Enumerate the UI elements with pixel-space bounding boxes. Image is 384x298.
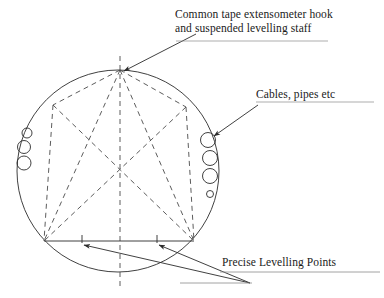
tape-line-upper-right-to-lower-right [186,107,194,241]
tape-line-crown-to-lower-left [44,70,120,241]
leader-line-cables [214,105,258,136]
cable-pipe-right-3 [203,169,218,184]
cable-pipe-left-1 [22,128,32,138]
cable-pipe-right-4 [207,191,214,198]
diagram-page: Common tape extensometer hook and suspen… [0,0,384,298]
label-extensometer-hook-line2: and suspended levelling staff [175,22,333,36]
tape-line-upper-right-to-lower-left [44,107,186,241]
tunnel-cross-section-diagram [0,0,384,298]
tape-line-crown-to-lower-right [120,70,194,241]
label-extensometer-hook-line1: Common tape extensometer hook [175,8,333,22]
leader-line-hook [124,34,196,71]
label-precise-levelling-points: Precise Levelling Points [222,256,336,270]
cable-pipe-right-1 [201,133,216,148]
label-cables-pipes: Cables, pipes etc [256,88,335,102]
tape-line-upper-left-to-lower-left [44,105,53,241]
cable-pipe-right-2 [203,151,218,166]
label-extensometer-hook: Common tape extensometer hook and suspen… [175,8,333,35]
cable-pipe-left-3 [17,156,31,170]
